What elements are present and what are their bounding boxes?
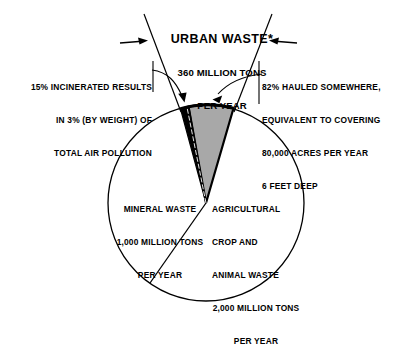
agri-label-line-4: 2,000 MILLION TONS <box>212 303 300 314</box>
page-title: URBAN WASTE* <box>161 32 283 46</box>
agri-label-line-1: AGRICULTURAL <box>212 204 304 215</box>
left-annotation-line-3: TOTAL AIR POLLUTION <box>12 148 152 159</box>
slice-label-agricultural-waste: AGRICULTURAL CROP AND ANIMAL WASTE 2,000… <box>212 182 304 348</box>
agri-label-line-2: CROP AND <box>212 237 304 248</box>
right-annotation-line-2: EQUIVALENT TO COVERING <box>262 115 398 126</box>
mineral-label-line-1: MINERAL WASTE <box>113 204 207 215</box>
left-annotation-line-1: 15% INCINERATED RESULTS <box>12 82 152 93</box>
mineral-label-line-2: 1,000 MILLION TONS <box>113 237 207 248</box>
right-annotation-line-3: 80,000 ACRES PER YEAR <box>262 148 398 159</box>
right-annotation-line-1: 82% HAULED SOMEWHERE, <box>262 82 398 93</box>
agri-label-line-3: ANIMAL WASTE <box>212 270 304 281</box>
slice-label-mineral-waste: MINERAL WASTE 1,000 MILLION TONS PER YEA… <box>113 182 207 303</box>
arrow-head-left <box>138 38 148 45</box>
agri-label-line-5: PER YEAR <box>212 336 300 347</box>
mineral-label-line-3: PER YEAR <box>113 270 207 281</box>
left-annotation-line-2: IN 3% (BY WEIGHT) OF <box>12 115 152 126</box>
left-annotation-block: 15% INCINERATED RESULTS IN 3% (BY WEIGHT… <box>12 60 152 181</box>
